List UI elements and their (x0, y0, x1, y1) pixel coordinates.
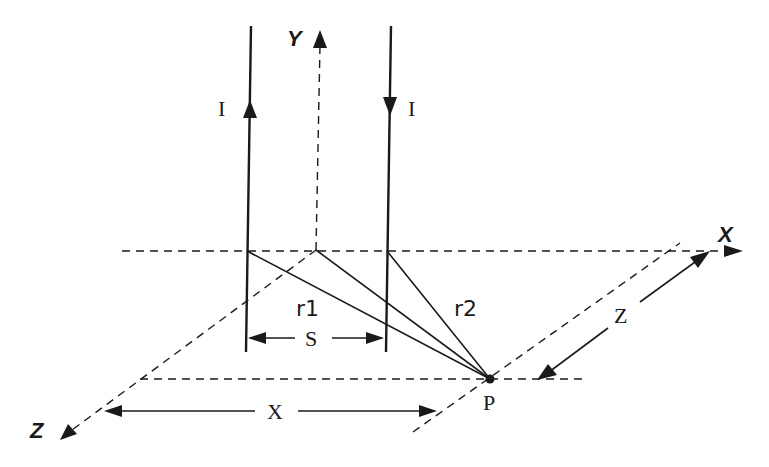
point-p-marker (486, 375, 495, 384)
r1-label: r1 (296, 296, 319, 321)
z-dim-up-arrow-icon (690, 251, 710, 268)
s-left-arrow-icon (248, 332, 266, 344)
y-axis-arrow-icon (313, 30, 327, 48)
x-dim-right-arrow-icon (419, 405, 437, 417)
wire-1: I (218, 26, 257, 352)
r2-label: r2 (454, 296, 477, 321)
wire-2-current-label: I (408, 96, 415, 121)
z-axis-label: Z (29, 418, 45, 443)
x-dimension: X (104, 399, 437, 424)
x-dim-left-arrow-icon (104, 405, 122, 417)
diagram-canvas: Y X Z I I r1 r2 S (0, 0, 769, 467)
x-dimension-label: X (267, 399, 283, 424)
separation-label: S (305, 326, 317, 351)
x-axis-label: X (716, 222, 734, 247)
separation-dimension: S (248, 326, 384, 351)
s-right-arrow-icon (366, 332, 384, 344)
current-up-arrow-icon (243, 100, 257, 118)
z-dim-down-arrow-icon (537, 364, 557, 380)
point-p-label: P (483, 390, 495, 415)
y-axis: Y (287, 26, 327, 250)
wire-1-current-label: I (218, 96, 225, 121)
z-dimension-label: Z (614, 303, 627, 328)
z-axis-arrow-icon (60, 424, 77, 440)
x-axis: X (122, 222, 743, 257)
y-axis-label: Y (287, 26, 304, 51)
current-down-arrow-icon (383, 97, 397, 116)
distance-lines: r1 r2 (247, 250, 490, 379)
z-dimension: Z (537, 251, 710, 380)
